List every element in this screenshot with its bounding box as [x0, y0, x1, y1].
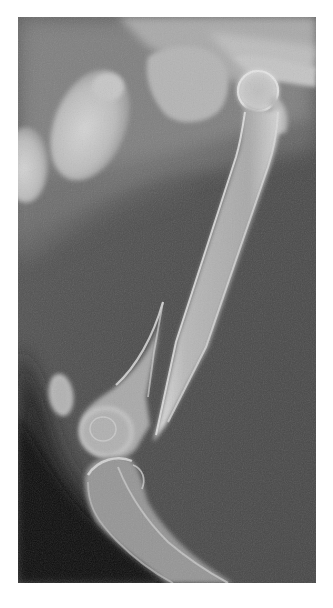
film-grain	[18, 17, 316, 583]
xray-canvas	[18, 17, 316, 583]
xray-image: Lateral radiograph showing an oblique mi…	[18, 17, 316, 583]
